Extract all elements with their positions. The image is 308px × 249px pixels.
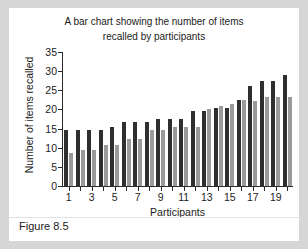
x-axis-tick-label: 1 — [59, 191, 79, 203]
bar-dark — [283, 75, 287, 186]
bar-group — [76, 52, 85, 186]
bar-dark — [87, 130, 91, 186]
bar-group — [260, 52, 269, 186]
bar-light — [276, 97, 280, 186]
bar-dark — [99, 130, 103, 186]
y-axis-tick-label: 10 — [31, 142, 57, 154]
bar-dark — [214, 108, 218, 186]
x-axis-tick-labels: 135791113151719 — [63, 191, 293, 205]
figure-caption: Figure 8.5 — [19, 220, 69, 232]
figure-card: A bar chart showing the number of items … — [9, 8, 299, 241]
x-axis-tick-label: 9 — [151, 191, 171, 203]
bar-dark — [271, 81, 275, 186]
bar-light — [127, 139, 131, 186]
x-axis-tick-label: 19 — [266, 191, 286, 203]
bar-group — [99, 52, 108, 186]
bar-dark — [260, 81, 264, 186]
bar-dark — [145, 122, 149, 186]
bar-group — [237, 52, 246, 186]
bar-dark — [76, 130, 80, 186]
bar-dark — [191, 111, 195, 186]
bar-dark — [168, 119, 172, 186]
bar-group — [168, 52, 177, 186]
bar-light — [150, 130, 154, 186]
bar-group — [87, 52, 96, 186]
bar-light — [230, 104, 234, 186]
bar-dark — [133, 122, 137, 186]
bar-group — [110, 52, 119, 186]
bar-dark — [202, 111, 206, 186]
bar-light — [92, 150, 96, 186]
bar-light — [253, 101, 257, 186]
bar-light — [161, 130, 165, 186]
bar-dark — [237, 100, 241, 186]
x-axis-tick-label: 15 — [220, 191, 240, 203]
y-axis-tick-labels: 05101520253035 — [31, 52, 57, 186]
bar-light — [207, 109, 211, 186]
x-axis-tick-label: 7 — [128, 191, 148, 203]
bar-dark — [122, 122, 126, 186]
plot-area: Number of items recalled 05101520253035 … — [9, 52, 299, 210]
y-axis-tick-label: 25 — [31, 84, 57, 96]
bar-dark — [179, 119, 183, 186]
y-axis-tick-label: 0 — [31, 180, 57, 192]
bar-light — [184, 127, 188, 186]
bar-group — [248, 52, 257, 186]
bar-light — [69, 153, 73, 186]
bar-series-container — [63, 52, 293, 186]
bar-dark — [248, 86, 252, 186]
bar-group — [145, 52, 154, 186]
chart-title-line-2: recalled by participants — [9, 29, 299, 44]
bar-group — [156, 52, 165, 186]
bar-group — [202, 52, 211, 186]
bar-group — [64, 52, 73, 186]
bar-group — [191, 52, 200, 186]
bar-light — [196, 127, 200, 186]
bar-dark — [110, 127, 114, 186]
bar-group — [225, 52, 234, 186]
bar-light — [173, 127, 177, 186]
bar-light — [219, 106, 223, 186]
x-axis-tick-label: 3 — [82, 191, 102, 203]
bar-group — [271, 52, 280, 186]
caption-divider — [9, 217, 299, 218]
x-axis-tick-label: 17 — [243, 191, 263, 203]
x-axis-tick-label: 11 — [174, 191, 194, 203]
y-axis-tick-label: 15 — [31, 123, 57, 135]
bar-light — [242, 100, 246, 186]
bar-group — [283, 52, 292, 186]
bar-light — [104, 145, 108, 186]
chart-title: A bar chart showing the number of items … — [9, 14, 299, 44]
x-axis-tick-label: 5 — [105, 191, 125, 203]
bar-light — [265, 97, 269, 186]
bar-group — [179, 52, 188, 186]
bar-dark — [64, 130, 68, 186]
bar-group — [122, 52, 131, 186]
chart-title-line-1: A bar chart showing the number of items — [9, 14, 299, 29]
bar-dark — [225, 108, 229, 186]
bar-light — [115, 145, 119, 186]
y-axis-tick-label: 30 — [31, 65, 57, 77]
bar-light — [138, 139, 142, 186]
y-axis-tick-label: 20 — [31, 103, 57, 115]
y-axis-tick-label: 5 — [31, 161, 57, 173]
bar-dark — [156, 119, 160, 186]
bar-group — [214, 52, 223, 186]
y-axis-tick-label: 35 — [31, 46, 57, 58]
x-axis-tick-label: 13 — [197, 191, 217, 203]
bar-light — [288, 97, 292, 186]
bar-group — [133, 52, 142, 186]
bar-light — [81, 150, 85, 186]
